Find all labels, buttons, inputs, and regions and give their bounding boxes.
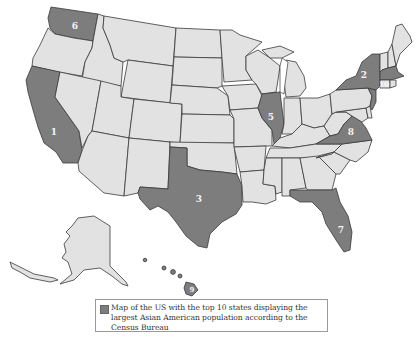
rank-label-washington: 6 xyxy=(72,21,78,31)
rank-label-california: 1 xyxy=(51,127,57,137)
state-kansas xyxy=(180,114,234,143)
us-map: 1 2 3 5 6 7 8 9 10 xyxy=(0,0,420,342)
legend-swatch xyxy=(100,305,109,314)
rank-label-virginia: 8 xyxy=(348,127,354,137)
legend: Map of the US with the top 10 states dis… xyxy=(95,299,328,332)
state-new-york xyxy=(336,54,380,90)
hawaii-island-small-4 xyxy=(178,274,182,278)
rank-label-new-york: 2 xyxy=(361,70,367,80)
hawaii-island-small-1 xyxy=(143,258,147,262)
state-south-dakota xyxy=(172,57,222,88)
state-wyoming xyxy=(121,60,173,103)
rank-label-hawaii: 9 xyxy=(190,285,195,294)
state-alaska xyxy=(60,216,128,286)
state-arkansas xyxy=(234,146,266,172)
rank-label-illinois: 5 xyxy=(268,112,274,122)
alaska-aleutians xyxy=(10,262,58,282)
rank-label-massachusetts: 10 xyxy=(379,80,389,89)
state-maine xyxy=(392,24,412,66)
hawaii-island-small-2 xyxy=(162,266,166,270)
state-colorado xyxy=(129,99,182,143)
hawaii-island-small-3 xyxy=(171,270,176,275)
state-north-dakota xyxy=(174,28,222,58)
rank-label-florida: 7 xyxy=(338,225,344,235)
state-florida xyxy=(290,188,352,252)
state-rhode-island xyxy=(390,80,396,88)
rank-label-texas: 3 xyxy=(196,194,202,204)
legend-text: Map of the US with the top 10 states dis… xyxy=(111,303,327,333)
